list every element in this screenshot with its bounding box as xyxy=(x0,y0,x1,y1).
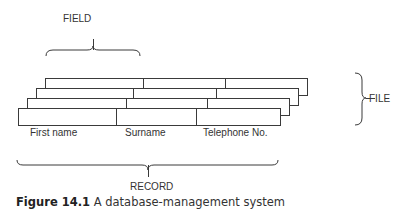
record-1 xyxy=(19,109,281,126)
column-label-first-name: First name xyxy=(30,127,77,138)
figure-caption: Figure 14.1 A database-management system xyxy=(16,195,285,209)
column-label-surname: Surname xyxy=(125,127,166,138)
database-diagram xyxy=(0,0,411,214)
column-label-telephone: Telephone No. xyxy=(203,127,268,138)
file-brace xyxy=(355,73,366,125)
caption-text: A database-management system xyxy=(94,195,285,209)
record-brace xyxy=(17,160,278,170)
caption-number: Figure 14.1 xyxy=(16,195,90,209)
